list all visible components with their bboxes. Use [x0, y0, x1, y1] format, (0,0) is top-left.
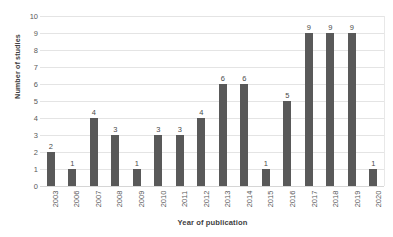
bar-slot: 5 — [277, 16, 299, 186]
bar-value-label: 9 — [350, 23, 354, 32]
bar[interactable] — [369, 169, 377, 186]
bar[interactable] — [326, 33, 334, 186]
bar[interactable] — [283, 101, 291, 186]
bar-slot: 6 — [212, 16, 234, 186]
bar[interactable] — [176, 135, 184, 186]
bar-slot: 1 — [255, 16, 277, 186]
x-tick-slot: 2018 — [320, 188, 342, 214]
bar[interactable] — [348, 33, 356, 186]
x-axis-tick: 2017 — [310, 191, 319, 208]
bar-slot: 1 — [363, 16, 385, 186]
bar-slot: 1 — [62, 16, 84, 186]
x-axis-tick: 2012 — [202, 191, 211, 208]
x-tick-slot: 2015 — [256, 188, 278, 214]
bar-slot: 9 — [298, 16, 320, 186]
x-axis-tick: 2019 — [353, 191, 362, 208]
bar-series: 2143133466159991 — [40, 16, 384, 186]
x-tick-slot: 2007 — [83, 188, 105, 214]
bar-slot: 2 — [40, 16, 62, 186]
bar[interactable] — [111, 135, 119, 186]
bar-value-label: 6 — [242, 74, 246, 83]
bar[interactable] — [305, 33, 313, 186]
y-axis-tick: 2 — [34, 148, 38, 157]
x-tick-slot: 2003 — [40, 188, 62, 214]
x-tick-slot: 2020 — [363, 188, 385, 214]
y-axis-tick: 4 — [34, 114, 38, 123]
y-axis-tick: 9 — [34, 29, 38, 38]
x-axis-tick: 2009 — [137, 191, 146, 208]
x-axis-tick: 2010 — [159, 191, 168, 208]
bar-value-label: 2 — [49, 142, 53, 151]
bar-value-label: 6 — [221, 74, 225, 83]
x-axis-tick: 2006 — [72, 191, 81, 208]
bar-slot: 9 — [341, 16, 363, 186]
bar-value-label: 4 — [199, 108, 203, 117]
bar[interactable] — [219, 84, 227, 186]
bar[interactable] — [47, 152, 55, 186]
x-axis-tick: 2013 — [223, 191, 232, 208]
x-tick-slot: 2010 — [148, 188, 170, 214]
bar-slot: 3 — [105, 16, 127, 186]
bar-slot: 3 — [169, 16, 191, 186]
bar-value-label: 5 — [285, 91, 289, 100]
bar[interactable] — [154, 135, 162, 186]
bar-value-label: 1 — [264, 159, 268, 168]
y-axis-tick: 0 — [34, 182, 38, 191]
x-tick-slot: 2008 — [105, 188, 127, 214]
x-axis-tick-labels: 2003200620072008200920102011201220132014… — [40, 188, 385, 214]
x-axis-tick: 2014 — [245, 191, 254, 208]
bar[interactable] — [240, 84, 248, 186]
x-axis-tick: 2003 — [51, 191, 60, 208]
y-axis-tick: 6 — [34, 80, 38, 89]
y-axis-tick: 7 — [34, 63, 38, 72]
x-axis-tick: 2011 — [180, 191, 189, 207]
bar-value-label: 3 — [156, 125, 160, 134]
axis-baseline — [40, 186, 384, 187]
x-tick-slot: 2017 — [299, 188, 321, 214]
bar-value-label: 1 — [135, 159, 139, 168]
x-axis-tick: 2007 — [94, 191, 103, 208]
bar[interactable] — [197, 118, 205, 186]
bar-slot: 1 — [126, 16, 148, 186]
bar-value-label: 4 — [92, 108, 96, 117]
x-axis-tick: 2015 — [266, 191, 275, 208]
x-tick-slot: 2013 — [213, 188, 235, 214]
x-axis-title: Year of publication — [40, 218, 385, 227]
bar-chart: Number of studies 012345678910 214313346… — [0, 0, 393, 237]
bar-slot: 3 — [148, 16, 170, 186]
x-tick-slot: 2014 — [234, 188, 256, 214]
bar-slot: 9 — [320, 16, 342, 186]
x-axis-tick: 2016 — [288, 191, 297, 208]
x-tick-slot: 2012 — [191, 188, 213, 214]
bar-value-label: 3 — [113, 125, 117, 134]
bar-value-label: 1 — [371, 159, 375, 168]
y-axis-tick-labels: 012345678910 — [24, 16, 38, 186]
x-tick-slot: 2009 — [126, 188, 148, 214]
y-axis-tick: 10 — [30, 12, 38, 21]
y-axis-tick: 3 — [34, 131, 38, 140]
bar-slot: 4 — [191, 16, 213, 186]
x-axis-tick: 2020 — [374, 191, 383, 208]
plot-area: 2143133466159991 — [40, 16, 385, 186]
bar[interactable] — [68, 169, 76, 186]
bar-value-label: 9 — [328, 23, 332, 32]
x-tick-slot: 2016 — [277, 188, 299, 214]
y-axis-tick: 1 — [34, 165, 38, 174]
y-axis-tick: 5 — [34, 97, 38, 106]
bar[interactable] — [90, 118, 98, 186]
bar-value-label: 9 — [307, 23, 311, 32]
x-tick-slot: 2011 — [169, 188, 191, 214]
bar-value-label: 1 — [70, 159, 74, 168]
x-tick-slot: 2019 — [342, 188, 364, 214]
x-axis-tick: 2008 — [115, 191, 124, 208]
bar-value-label: 3 — [178, 125, 182, 134]
y-axis-title: Number of studies — [13, 24, 22, 110]
bar[interactable] — [262, 169, 270, 186]
x-tick-slot: 2006 — [62, 188, 84, 214]
x-axis-tick: 2018 — [331, 191, 340, 208]
bar[interactable] — [133, 169, 141, 186]
bar-slot: 4 — [83, 16, 105, 186]
y-axis-tick: 8 — [34, 46, 38, 55]
bar-slot: 6 — [234, 16, 256, 186]
